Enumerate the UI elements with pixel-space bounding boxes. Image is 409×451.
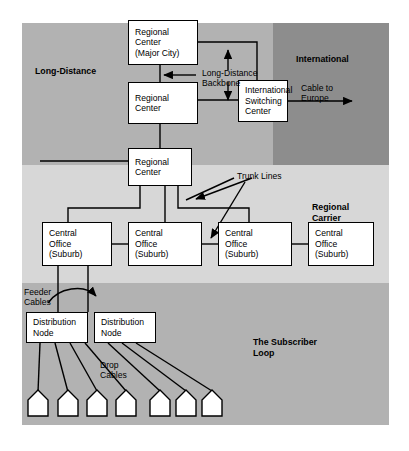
- house-icon: [202, 390, 222, 416]
- network-hierarchy-diagram: Long-Distance International Regional Car…: [0, 0, 409, 451]
- house-icon: [87, 390, 107, 416]
- subscriber-houses-layer: [0, 0, 409, 451]
- house-icon: [150, 390, 170, 416]
- house-icon: [58, 390, 78, 416]
- house-icon: [176, 390, 196, 416]
- house-icon: [28, 390, 48, 416]
- house-icon: [116, 390, 136, 416]
